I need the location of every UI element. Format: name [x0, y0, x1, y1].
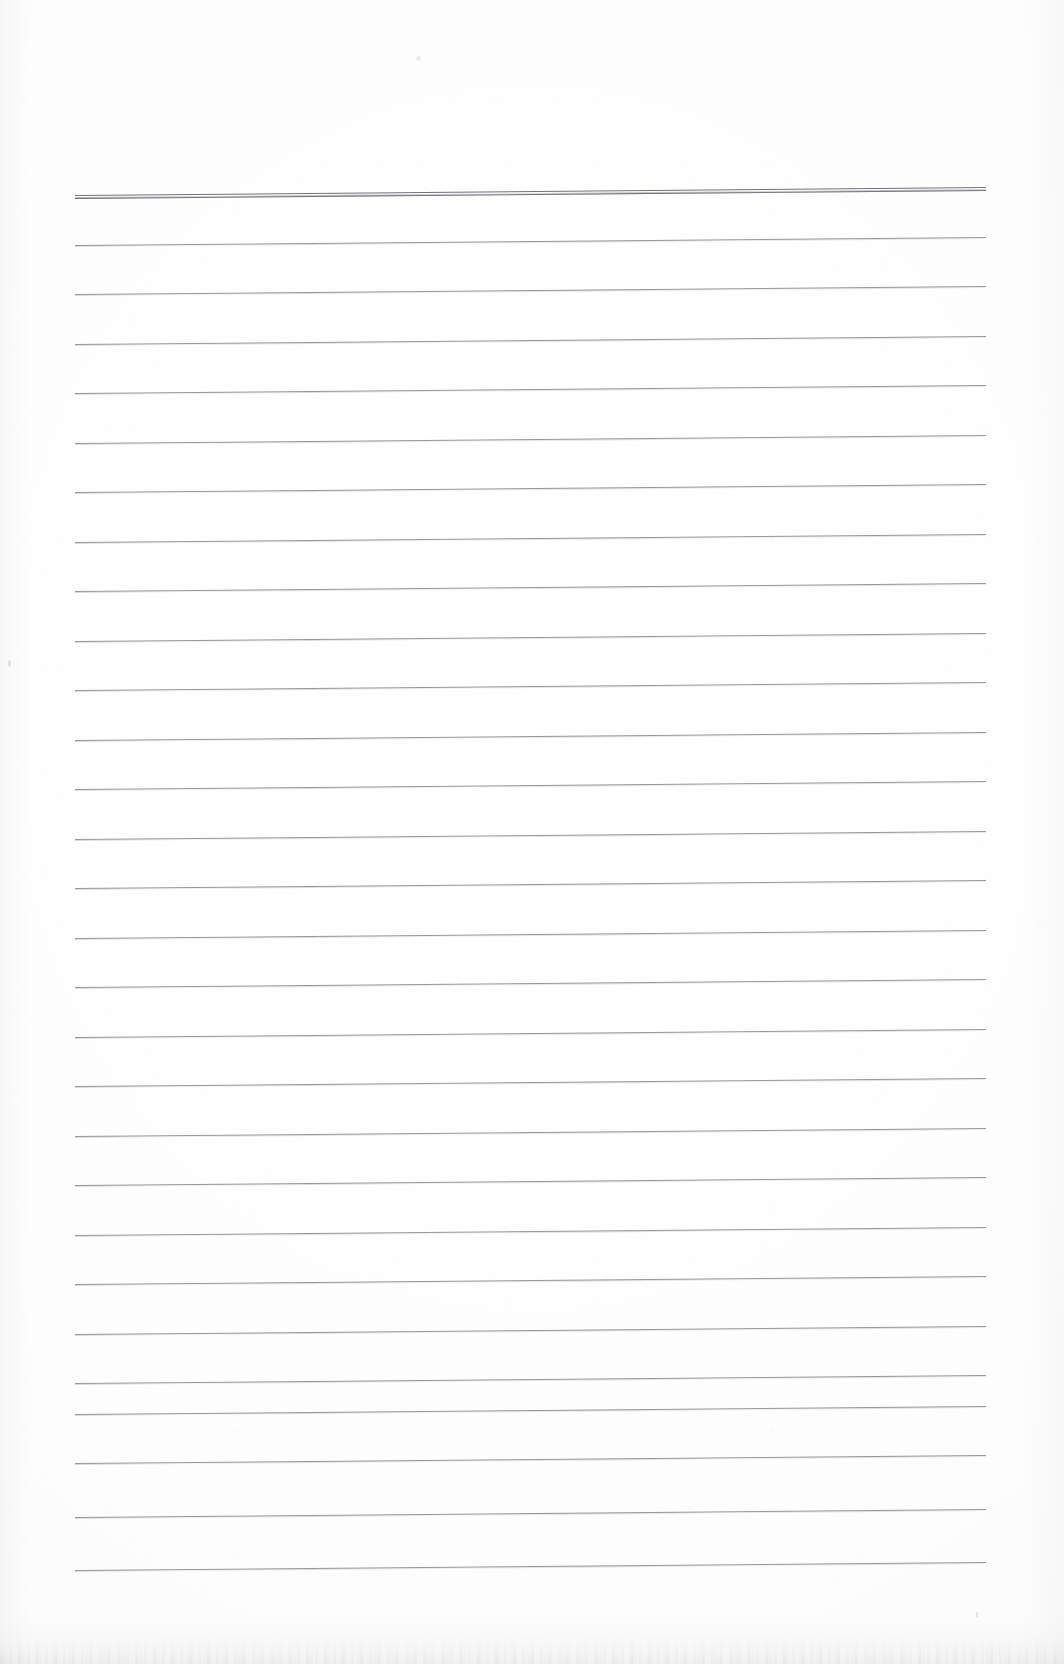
- rule-line: [75, 435, 986, 444]
- rule-line: [75, 930, 986, 939]
- bottom-scan-texture: [0, 1638, 1064, 1664]
- ruled-lines-layer: [0, 0, 1064, 1664]
- header-rule-line: [75, 187, 986, 196]
- rule-line: [75, 1177, 986, 1186]
- rule-line: [75, 1375, 986, 1384]
- rule-line: [75, 1078, 986, 1087]
- rule-line: [75, 1326, 986, 1335]
- rule-line: [75, 336, 986, 345]
- rule-line: [75, 979, 986, 988]
- scan-speck: [8, 660, 11, 667]
- scanned-page: [0, 0, 1064, 1664]
- rule-line: [75, 831, 986, 840]
- rule-line: [75, 1509, 986, 1518]
- rule-line: [75, 633, 986, 642]
- rule-line: [75, 237, 986, 246]
- rule-line: [75, 583, 986, 592]
- rule-line: [75, 1227, 986, 1236]
- rule-line: [75, 732, 986, 741]
- rule-line: [75, 682, 986, 691]
- rule-line: [75, 1406, 986, 1415]
- rule-line: [75, 534, 986, 543]
- rule-line: [75, 1128, 986, 1137]
- rule-line: [75, 1562, 986, 1571]
- scan-speck: [416, 56, 421, 61]
- rule-line: [75, 781, 986, 790]
- rule-line: [75, 286, 986, 295]
- rule-line: [75, 1455, 986, 1464]
- rule-line: [75, 385, 986, 394]
- rule-line: [75, 1029, 986, 1038]
- rule-line: [75, 1276, 986, 1285]
- rule-line: [75, 484, 986, 493]
- rule-line: [75, 880, 986, 889]
